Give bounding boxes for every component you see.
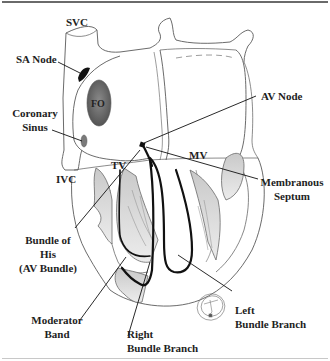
label-bundle-of-his-line3: (AV Bundle) bbox=[18, 261, 78, 275]
label-fo: FO bbox=[91, 97, 105, 111]
label-moderator-band: Moderator Band bbox=[30, 313, 84, 341]
label-moderator-band-line2: Band bbox=[30, 327, 84, 341]
label-left-bundle-branch-line1: Left bbox=[235, 303, 306, 317]
label-bundle-of-his-line2: His bbox=[18, 247, 78, 261]
label-right-bundle-branch-line2: Bundle Branch bbox=[127, 341, 198, 355]
label-bundle-of-his-line1: Bundle of bbox=[18, 233, 78, 247]
av-node-leader bbox=[144, 96, 256, 143]
label-right-bundle-branch-line1: Right bbox=[127, 327, 198, 341]
label-av-node: AV Node bbox=[261, 89, 302, 103]
bottom-rule-divider bbox=[2, 358, 328, 359]
sa-node-leader bbox=[58, 62, 80, 73]
label-sa-node: SA Node bbox=[16, 52, 57, 66]
interatrial-septum bbox=[160, 50, 169, 160]
left-bundle-branch-leader bbox=[178, 255, 232, 291]
left-bundle-branch-path bbox=[150, 158, 192, 272]
label-right-bundle-branch: Right Bundle Branch bbox=[127, 327, 198, 355]
label-coronary-sinus-line2: Sinus bbox=[10, 120, 60, 134]
ivc-vessel bbox=[62, 33, 82, 170]
label-membranous-septum-line1: Membranous bbox=[256, 175, 328, 189]
label-coronary-sinus: Coronary Sinus bbox=[10, 106, 60, 134]
svc-vessel bbox=[66, 26, 150, 52]
label-membranous-septum: Membranous Septum bbox=[256, 175, 328, 203]
label-left-bundle-branch-line2: Bundle Branch bbox=[235, 317, 306, 331]
label-ivc: IVC bbox=[56, 172, 76, 186]
label-coronary-sinus-line1: Coronary bbox=[10, 106, 60, 120]
label-membranous-septum-line2: Septum bbox=[256, 189, 328, 203]
label-svc: SVC bbox=[66, 15, 88, 29]
label-tv: TV bbox=[111, 158, 126, 172]
label-bundle-of-his: Bundle of His (AV Bundle) bbox=[18, 233, 78, 275]
heart-conduction-diagram: SVC SA Node FO Coronary Sinus IVC TV MV … bbox=[0, 0, 330, 361]
label-left-bundle-branch: Left Bundle Branch bbox=[235, 303, 306, 331]
label-mv: MV bbox=[189, 148, 207, 162]
label-moderator-band-line1: Moderator bbox=[30, 313, 84, 327]
